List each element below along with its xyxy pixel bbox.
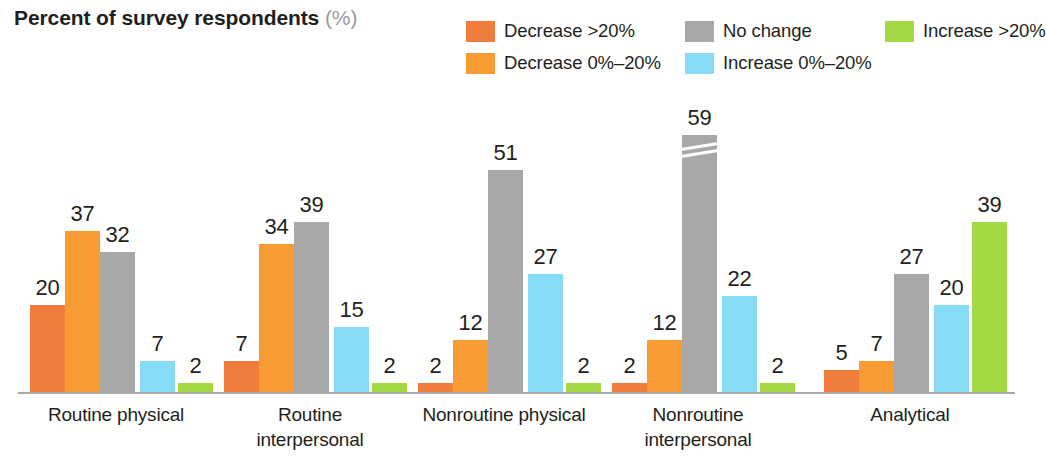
x-axis-category-line: Nonroutine bbox=[600, 402, 796, 427]
bar[interactable] bbox=[612, 383, 647, 392]
bar[interactable] bbox=[224, 361, 259, 392]
bar[interactable] bbox=[334, 327, 369, 392]
bar-group-bars: 73439152 bbox=[212, 92, 408, 392]
bar-group: 20373272Routine physical bbox=[18, 92, 214, 475]
bar-group: 21259222Nonroutineinterpersonal bbox=[600, 92, 796, 475]
bar[interactable] bbox=[488, 170, 523, 392]
bar-slot: 20 bbox=[934, 271, 969, 392]
legend-label-increase-0-20: Increase 0%–20% bbox=[723, 52, 872, 74]
bar-value-label: 2 bbox=[772, 355, 784, 377]
chart-header: Percent of survey respondents (%) Decrea… bbox=[0, 0, 1024, 92]
bar[interactable] bbox=[722, 296, 757, 392]
bar-value-label: 59 bbox=[688, 107, 712, 129]
bar[interactable] bbox=[30, 305, 65, 392]
bar-value-label: 2 bbox=[384, 355, 396, 377]
bar-slot: 12 bbox=[453, 306, 488, 392]
bar-value-label: 34 bbox=[265, 216, 289, 238]
x-axis-category-line: Analytical bbox=[812, 402, 1008, 427]
legend-item-decrease-0-20: Decrease 0%–20% bbox=[466, 52, 661, 74]
bar-value-label: 12 bbox=[459, 312, 483, 334]
bar[interactable] bbox=[824, 370, 859, 392]
bar-group-bars: 20373272 bbox=[18, 92, 214, 392]
bar-value-label: 12 bbox=[653, 312, 677, 334]
bar-value-label: 20 bbox=[940, 277, 964, 299]
bar-value-label: 39 bbox=[978, 194, 1002, 216]
x-axis-category-line: interpersonal bbox=[600, 427, 796, 452]
bar-slot: 27 bbox=[894, 240, 929, 392]
legend-swatch-no-change bbox=[685, 21, 714, 42]
bar-slot: 27 bbox=[528, 240, 563, 392]
bar-value-label: 22 bbox=[728, 268, 752, 290]
bar[interactable] bbox=[566, 383, 601, 392]
bar-slot: 22 bbox=[722, 262, 757, 392]
bar-group: 57272039Analytical bbox=[812, 92, 1008, 475]
bar-value-label: 2 bbox=[578, 355, 590, 377]
x-axis-category-label: Analytical bbox=[812, 402, 1008, 427]
bar-value-label: 2 bbox=[190, 355, 202, 377]
bar-group-bars: 21259222 bbox=[600, 92, 796, 392]
bar[interactable] bbox=[859, 361, 894, 392]
bar-value-label: 5 bbox=[836, 342, 848, 364]
bar-value-label: 39 bbox=[300, 194, 324, 216]
bar[interactable] bbox=[100, 252, 135, 392]
x-axis-category-line: Nonroutine physical bbox=[406, 402, 602, 427]
legend-label-decrease-gt-20: Decrease >20% bbox=[504, 20, 635, 42]
bar-slot: 2 bbox=[566, 349, 601, 392]
bar-slot: 12 bbox=[647, 306, 682, 392]
bar-slot: 59 bbox=[682, 101, 717, 392]
legend-item-decrease-gt-20: Decrease >20% bbox=[466, 20, 635, 42]
bar[interactable] bbox=[140, 361, 175, 392]
bar[interactable] bbox=[682, 135, 717, 392]
bar-slot: 2 bbox=[178, 349, 213, 392]
x-axis-category-label: Nonroutine physical bbox=[406, 402, 602, 427]
legend-item-increase-gt-20: Increase >20% bbox=[885, 20, 1046, 42]
bar[interactable] bbox=[372, 383, 407, 392]
bar-slot: 7 bbox=[224, 327, 259, 392]
bar-group-bars: 57272039 bbox=[812, 92, 1008, 392]
bar[interactable] bbox=[894, 274, 929, 392]
bar[interactable] bbox=[647, 340, 682, 392]
bar-chart-plot: 20373272Routine physical73439152Routinei… bbox=[0, 92, 1024, 475]
bar-slot: 37 bbox=[65, 197, 100, 392]
bar[interactable] bbox=[418, 383, 453, 392]
bar-value-label: 51 bbox=[494, 142, 518, 164]
bar-slot: 2 bbox=[372, 349, 407, 392]
bar[interactable] bbox=[178, 383, 213, 392]
x-axis-category-line: Routine physical bbox=[18, 402, 214, 427]
bar[interactable] bbox=[259, 244, 294, 392]
chart-title-unit: (%) bbox=[325, 6, 357, 29]
bar-slot: 39 bbox=[294, 188, 329, 392]
bar-slot: 32 bbox=[100, 218, 135, 392]
bar-slot: 7 bbox=[859, 327, 894, 392]
bar-slot: 39 bbox=[972, 188, 1007, 392]
bar-slot: 2 bbox=[760, 349, 795, 392]
chart-legend: Decrease >20% Decrease 0%–20% No change … bbox=[466, 20, 1024, 82]
x-axis-category-label: Routine physical bbox=[18, 402, 214, 427]
bar-group: 73439152Routineinterpersonal bbox=[212, 92, 408, 475]
x-axis-category-label: Routineinterpersonal bbox=[212, 402, 408, 452]
bar-value-label: 7 bbox=[871, 333, 883, 355]
bar[interactable] bbox=[65, 231, 100, 392]
page-title: Percent of survey respondents (%) bbox=[14, 6, 357, 30]
x-axis-category-label: Nonroutineinterpersonal bbox=[600, 402, 796, 452]
bar[interactable] bbox=[453, 340, 488, 392]
bar-value-label: 2 bbox=[430, 355, 442, 377]
bar[interactable] bbox=[760, 383, 795, 392]
bar-slot: 20 bbox=[30, 271, 65, 392]
bar[interactable] bbox=[294, 222, 329, 392]
bar[interactable] bbox=[934, 305, 969, 392]
legend-swatch-increase-0-20 bbox=[685, 53, 714, 74]
bar-value-label: 27 bbox=[900, 246, 924, 268]
bar-group: 21251272Nonroutine physical bbox=[406, 92, 602, 475]
bar-value-label: 7 bbox=[236, 333, 248, 355]
bar-slot: 2 bbox=[612, 349, 647, 392]
legend-swatch-decrease-0-20 bbox=[466, 53, 495, 74]
bar[interactable] bbox=[528, 274, 563, 392]
bar-slot: 34 bbox=[259, 210, 294, 392]
bar-value-label: 32 bbox=[106, 224, 130, 246]
legend-label-increase-gt-20: Increase >20% bbox=[923, 20, 1046, 42]
bar[interactable] bbox=[972, 222, 1007, 392]
legend-label-no-change: No change bbox=[723, 20, 812, 42]
bar-value-label: 27 bbox=[534, 246, 558, 268]
legend-swatch-increase-gt-20 bbox=[885, 21, 914, 42]
